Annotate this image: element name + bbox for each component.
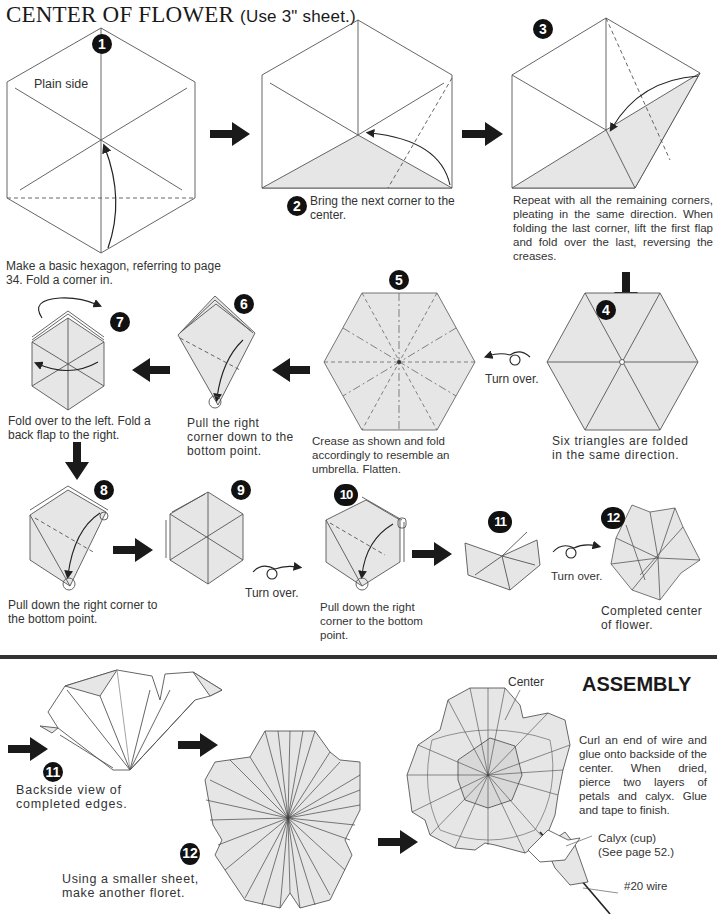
calyx-label: Calyx (cup) — [598, 832, 656, 844]
assembly-step-11-caption: Backside view of completed edges. — [16, 783, 166, 811]
assembly-instructions: Curl an end of wire and glue onto backsi… — [579, 733, 707, 817]
calyx-ref-label: (See page 52.) — [598, 846, 674, 858]
assembly-heading: ASSEMBLY — [582, 673, 691, 696]
assembly-step-12-caption: Using a smaller sheet, make another flor… — [62, 872, 212, 900]
assembly-step-badge-12: 12 — [180, 843, 200, 865]
center-label: Center — [508, 675, 544, 689]
assembly-step-badge-11: 11 — [43, 762, 63, 782]
wire-label: #20 wire — [624, 880, 667, 892]
